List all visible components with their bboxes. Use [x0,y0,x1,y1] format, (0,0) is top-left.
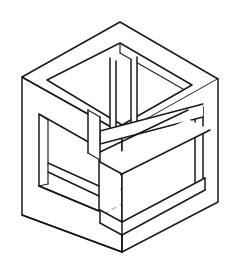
center-vertical-post [88,110,100,162]
impossible-cube-figure: Impossible cube wireframe Line drawing o… [0,0,239,275]
